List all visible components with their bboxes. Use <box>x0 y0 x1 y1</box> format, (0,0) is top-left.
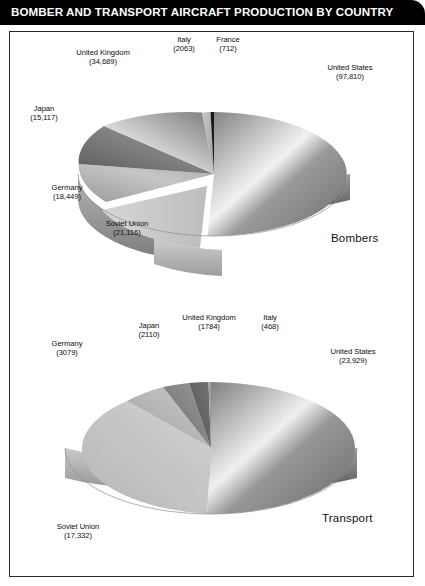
label-japan: Japan(15,117) <box>18 105 70 122</box>
label-soviet-union: Soviet Union(17,332) <box>40 523 116 540</box>
chart-frame: Italy(2063) France(712) United Kingdom(3… <box>9 31 414 577</box>
label-france: France(712) <box>205 36 251 53</box>
caption-transport: Transport <box>322 512 373 524</box>
label-soviet-union: Soviet Union(21,116) <box>89 220 165 237</box>
transport-chart: Germany(3079) Japan(2110) United Kingdom… <box>10 294 413 576</box>
label-united-states: United States(97,810) <box>310 64 390 81</box>
bombers-chart: Italy(2063) France(712) United Kingdom(3… <box>10 32 413 294</box>
chart-page: BOMBER AND TRANSPORT AIRCRAFT PRODUCTION… <box>0 0 425 586</box>
slice-united-states <box>208 112 347 236</box>
label-italy: Italy(468) <box>250 314 290 331</box>
page-title: BOMBER AND TRANSPORT AIRCRAFT PRODUCTION… <box>11 5 393 18</box>
label-japan: Japan(2110) <box>126 322 172 339</box>
caption-bombers: Bombers <box>331 232 378 244</box>
label-united-kingdom: United Kingdom(1784) <box>170 314 248 331</box>
label-germany: Germany(18,449) <box>36 184 98 201</box>
label-united-kingdom: United Kingdom(34,689) <box>61 49 145 66</box>
label-united-states: United States(23,929) <box>313 348 393 365</box>
label-italy: Italy(2063) <box>162 36 206 53</box>
header-banner: BOMBER AND TRANSPORT AIRCRAFT PRODUCTION… <box>0 0 425 25</box>
slice-united-states <box>207 382 355 514</box>
label-germany: Germany(3079) <box>36 340 98 357</box>
